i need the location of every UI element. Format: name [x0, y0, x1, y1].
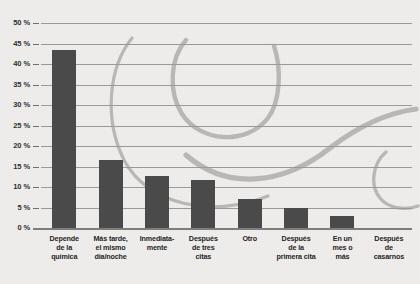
x-axis-label: Después de casarnos [363, 234, 415, 262]
x-axis-label: Más tarde, el mismo día/noche [84, 234, 136, 262]
x-axis-label: Otro [224, 234, 276, 243]
bar [191, 180, 215, 228]
x-axis-label: Después de la primera cita [270, 234, 322, 262]
x-axis-label: Inmediata- mente [131, 234, 183, 252]
bar [330, 216, 354, 228]
bar [238, 199, 262, 228]
x-axis-baseline [33, 228, 412, 230]
bar-chart: 0 %5 %10 %15 %20 %25 %30 %35 %40 %45 %50… [0, 0, 420, 284]
bar-series [0, 0, 420, 228]
x-axis-label: En un mes o más [316, 234, 368, 262]
bar [284, 208, 308, 229]
x-axis-label: Después de tres citas [177, 234, 229, 262]
bar [99, 160, 123, 228]
x-axis-label: Depende de la química [38, 234, 90, 262]
bar [52, 50, 76, 228]
bar [145, 176, 169, 228]
